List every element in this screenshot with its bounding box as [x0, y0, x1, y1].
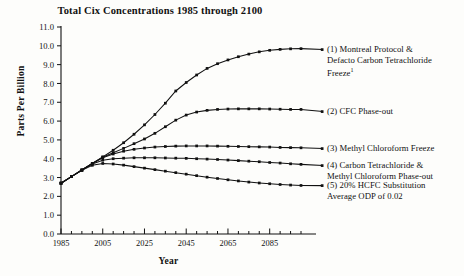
x-tick-label: 2085 — [261, 239, 278, 248]
data-point — [185, 145, 188, 148]
data-point — [206, 67, 209, 70]
legend-leader-1 — [301, 49, 323, 50]
data-point — [122, 150, 125, 153]
legend-leader-4 — [301, 164, 323, 165]
legend-leader-endpoint — [321, 147, 324, 150]
data-point — [237, 180, 240, 183]
data-point — [195, 111, 198, 114]
data-point — [247, 108, 250, 111]
data-point — [164, 145, 167, 148]
legend-entry-5: (5) 20% HCFC SubstitutionAverage ODP of … — [327, 180, 464, 201]
y-tick-label: 5.0 — [43, 135, 54, 145]
y-tick-label: 0.0 — [43, 229, 54, 239]
data-point — [133, 165, 136, 168]
data-point — [164, 125, 167, 128]
data-point — [174, 145, 177, 148]
data-point — [174, 119, 177, 122]
data-point — [185, 173, 188, 176]
data-point — [143, 156, 146, 159]
data-point — [258, 108, 261, 111]
data-point — [237, 108, 240, 111]
legend-label-line: (3) Methyl Chloroform Freeze — [327, 143, 464, 154]
data-point — [279, 146, 282, 149]
y-tick-label: 8.0 — [43, 79, 54, 89]
legend-leader-endpoint — [321, 164, 324, 167]
y-tick-label: 4.0 — [43, 154, 54, 164]
data-point — [164, 170, 167, 173]
data-point — [164, 157, 167, 160]
legend-label-line: (4) Carbon Tetrachloride & — [327, 160, 464, 171]
data-point — [112, 153, 115, 156]
data-point — [289, 162, 292, 165]
data-point — [122, 147, 125, 150]
x-tick-label: 2065 — [220, 239, 237, 248]
x-tick-label: 2025 — [136, 239, 153, 248]
data-point — [143, 138, 146, 141]
data-point — [154, 132, 157, 135]
data-point — [154, 156, 157, 159]
data-point — [258, 160, 261, 163]
data-point — [216, 108, 219, 111]
data-point — [289, 146, 292, 149]
data-point — [268, 108, 271, 111]
legend: (1) Montreal Protocol &Defacto Carbon Te… — [327, 0, 464, 276]
data-point — [133, 142, 136, 145]
data-point — [279, 162, 282, 165]
data-point — [185, 157, 188, 160]
series-line-1 — [61, 49, 301, 184]
data-point — [112, 163, 115, 166]
data-point — [206, 145, 209, 148]
data-point — [247, 181, 250, 184]
data-point — [101, 156, 104, 159]
data-point — [237, 55, 240, 58]
data-point — [143, 147, 146, 150]
data-point — [60, 182, 63, 185]
data-point — [122, 141, 125, 144]
y-tick-label: 7.0 — [43, 97, 54, 107]
data-point — [174, 157, 177, 160]
data-point — [227, 178, 230, 181]
data-point — [268, 146, 271, 149]
data-point — [133, 148, 136, 151]
data-point — [81, 169, 84, 172]
data-point — [289, 184, 292, 187]
data-point — [279, 108, 282, 111]
data-point — [268, 161, 271, 164]
data-point — [247, 160, 250, 163]
legend-leader-3 — [301, 148, 323, 149]
data-point — [154, 146, 157, 149]
data-point — [206, 176, 209, 179]
data-point — [227, 108, 230, 111]
data-point — [154, 168, 157, 171]
data-point — [133, 133, 136, 136]
data-point — [195, 174, 198, 177]
data-point — [195, 74, 198, 77]
legend-label-line: (5) 20% HCFC Substitution — [327, 180, 464, 191]
data-point — [112, 157, 115, 160]
x-tick-label: 1985 — [53, 239, 70, 248]
data-point — [289, 108, 292, 111]
y-tick-label: 11.0 — [39, 22, 54, 32]
legend-leader-endpoint — [321, 110, 324, 113]
data-point — [154, 113, 157, 116]
legend-entry-1: (1) Montreal Protocol &Defacto Carbon Te… — [327, 44, 464, 79]
data-point — [133, 156, 136, 159]
data-point — [268, 182, 271, 185]
data-point — [216, 158, 219, 161]
legend-label-line: (1) Montreal Protocol & — [327, 44, 464, 55]
legend-footnote-marker: 1 — [350, 67, 353, 73]
data-point — [185, 114, 188, 117]
data-point — [289, 47, 292, 50]
data-point — [195, 145, 198, 148]
data-point — [258, 50, 261, 53]
data-point — [112, 149, 115, 152]
data-point — [206, 109, 209, 112]
data-point — [101, 159, 104, 162]
y-tick-label: 3.0 — [43, 173, 54, 183]
data-point — [237, 145, 240, 148]
y-tick-label: 9.0 — [43, 60, 54, 70]
data-point — [216, 177, 219, 180]
legend-label-line: Average ODP of 0.02 — [327, 191, 464, 202]
data-point — [174, 171, 177, 174]
legend-label-line: (2) CFC Phase-out — [327, 106, 464, 117]
